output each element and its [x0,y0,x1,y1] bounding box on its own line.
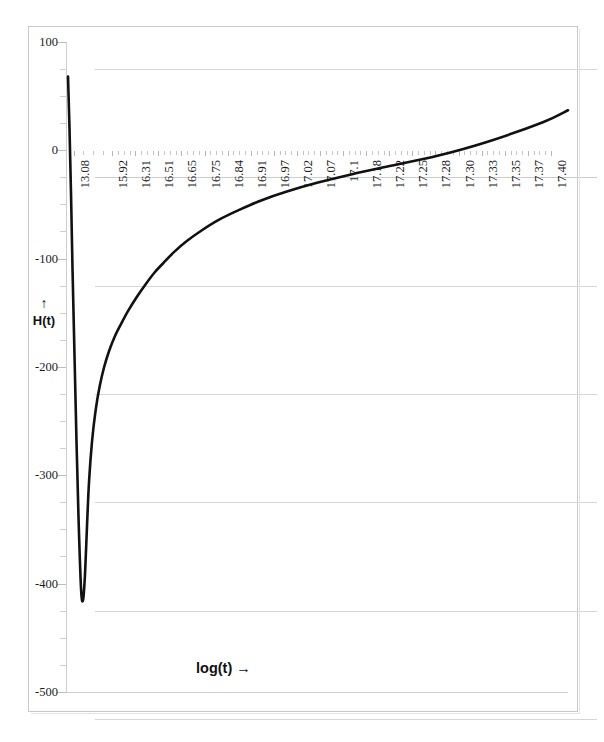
series-line-ht [68,77,568,602]
chart-curve-layer [0,0,604,742]
